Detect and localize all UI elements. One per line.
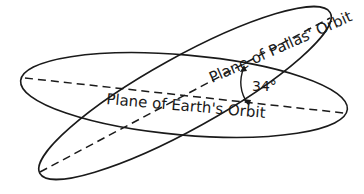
angle-label: 34° — [252, 78, 277, 94]
orbit-planes-diagram: Plane of Pallas' Orbit Plane of Earth's … — [0, 0, 364, 194]
earth-plane-label: Plane of Earth's Orbit — [106, 90, 267, 122]
